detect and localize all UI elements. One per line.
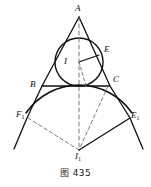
figure-container: A E I B C F1 E1 I1 图 435 <box>0 0 151 187</box>
figure-caption: 图 435 <box>0 166 151 179</box>
point-label-i1-sub: 1 <box>78 156 81 162</box>
point-label-e1: E1 <box>131 111 140 120</box>
point-label-e: E <box>104 45 110 54</box>
point-label-i: I <box>64 57 67 66</box>
point-label-e1-base: E <box>131 110 137 120</box>
incircle-radius-to-e <box>79 55 99 62</box>
point-label-f1-base: F <box>16 109 22 119</box>
point-label-b: B <box>30 80 36 89</box>
point-label-i1: I1 <box>75 152 81 161</box>
incenter-to-base-dashed <box>79 62 86 86</box>
point-label-a: A <box>75 4 81 13</box>
point-label-f1-sub: 1 <box>22 114 25 120</box>
f1-to-excenter-dashed <box>28 118 79 150</box>
point-label-f1: F1 <box>16 110 25 119</box>
point-label-e1-sub: 1 <box>137 115 140 121</box>
point-label-c: C <box>113 75 119 84</box>
